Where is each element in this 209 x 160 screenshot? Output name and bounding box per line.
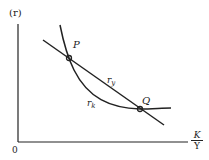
ry-line xyxy=(43,40,164,125)
origin-label: 0 xyxy=(12,146,18,155)
point-p-label: P xyxy=(73,40,80,50)
ry-label-sub: y xyxy=(111,79,115,87)
point-q-label: Q xyxy=(142,96,150,106)
x-axis-label-denominator: Y xyxy=(191,141,203,151)
diagram: (r) 0 P Q ry rk K Y xyxy=(0,0,209,160)
diagram-svg xyxy=(0,0,209,160)
x-axis-label: K Y xyxy=(191,130,203,151)
rk-label-sub: k xyxy=(91,102,95,110)
y-axis-label: (r) xyxy=(9,8,22,18)
rk-label: rk xyxy=(87,99,96,110)
rk-curve xyxy=(60,25,171,109)
ry-label: ry xyxy=(107,76,115,87)
x-axis-label-numerator: K xyxy=(191,130,203,141)
